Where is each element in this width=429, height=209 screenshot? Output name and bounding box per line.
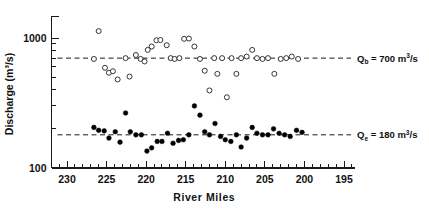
data-point-effective: [223, 137, 228, 142]
data-point-effective: [288, 134, 293, 139]
data-point-effective: [239, 145, 244, 150]
data-point-effective: [113, 129, 118, 134]
svg-text:Qe = 180 m3/s: Qe = 180 m3/s: [357, 129, 417, 142]
data-point-bankfull: [123, 56, 128, 61]
data-point-effective: [145, 149, 150, 154]
data-point-effective: [128, 129, 133, 134]
data-point-bankfull: [96, 29, 101, 34]
x-tick-labels-group: 230225220215210205200195: [58, 173, 353, 185]
data-point-bankfull: [254, 56, 259, 61]
data-point-effective: [271, 127, 276, 132]
discharge-vs-river-miles-chart: Discharge (m³/s) 1000100 230225220215210…: [0, 0, 429, 209]
data-point-bankfull: [164, 43, 169, 48]
annot-units-tail: /s: [410, 129, 418, 140]
x-tick-label: 205: [256, 173, 274, 185]
data-point-effective: [155, 139, 160, 144]
series-effective-points: [92, 104, 305, 154]
data-point-effective: [165, 131, 170, 136]
data-point-effective: [207, 132, 212, 137]
data-point-bankfull: [182, 36, 187, 41]
data-point-bankfull: [127, 74, 132, 79]
data-point-effective: [198, 113, 203, 118]
data-point-bankfull: [266, 56, 271, 61]
data-point-effective: [139, 132, 144, 137]
data-point-bankfull: [296, 56, 301, 61]
effective-discharge-label: Qe = 180 m3/s: [357, 129, 417, 142]
data-point-bankfull: [149, 44, 154, 49]
svg-text:Qb = 700 m3/s: Qb = 700 m3/s: [357, 52, 418, 65]
y-tick-labels-group: 1000100: [23, 32, 47, 174]
annotations-group: Qb = 700 m3/sQe = 180 m3/s: [357, 52, 418, 142]
x-axis-title: River Miles: [173, 191, 235, 203]
data-point-effective: [218, 134, 223, 139]
data-point-bankfull: [272, 71, 277, 76]
data-point-bankfull: [202, 68, 207, 73]
data-point-effective: [118, 140, 123, 145]
x-tick-label: 195: [335, 173, 353, 185]
data-point-bankfull: [192, 44, 197, 49]
annot-symbol: Q: [357, 53, 364, 64]
axes-group: [52, 16, 356, 168]
data-point-effective: [234, 132, 239, 137]
data-point-effective: [228, 139, 233, 144]
x-tick-label: 220: [137, 173, 155, 185]
data-point-bankfull: [207, 88, 212, 93]
series-bankfull-points: [91, 29, 300, 100]
data-point-bankfull: [212, 56, 217, 61]
data-point-bankfull: [289, 54, 294, 59]
data-point-effective: [202, 129, 207, 134]
data-point-effective: [149, 145, 154, 150]
data-point-bankfull: [172, 56, 177, 61]
data-point-effective: [255, 131, 260, 136]
data-point-effective: [192, 104, 197, 109]
data-point-bankfull: [91, 56, 96, 61]
data-point-effective: [96, 128, 101, 133]
data-point-bankfull: [224, 95, 229, 100]
data-point-effective: [181, 137, 186, 142]
x-tick-label: 230: [58, 173, 76, 185]
data-point-effective: [187, 132, 192, 137]
data-point-bankfull: [110, 69, 115, 74]
data-point-bankfull: [102, 65, 107, 70]
y-axis-title-group: Discharge (m³/s): [3, 53, 15, 135]
data-point-effective: [102, 129, 107, 134]
data-point-effective: [300, 130, 305, 135]
data-point-bankfull: [278, 56, 283, 61]
data-point-effective: [176, 138, 181, 143]
data-point-effective: [260, 132, 265, 137]
annot-symbol: Q: [357, 129, 364, 140]
data-point-effective: [277, 131, 282, 136]
data-point-bankfull: [244, 54, 249, 59]
annot-units: m: [395, 53, 406, 64]
data-point-bankfull: [142, 59, 147, 64]
data-point-bankfull: [250, 47, 255, 52]
data-point-effective: [282, 132, 287, 137]
data-point-bankfull: [229, 56, 234, 61]
data-point-bankfull: [260, 56, 265, 61]
data-point-bankfull: [220, 56, 225, 61]
y-axis-title: Discharge (m³/s): [3, 53, 15, 135]
y-tick-label: 1000: [23, 32, 47, 44]
data-point-effective: [213, 121, 218, 126]
data-point-effective: [92, 125, 97, 130]
annot-value: 180: [379, 129, 395, 140]
data-point-bankfull: [284, 56, 289, 61]
x-tick-label: 225: [98, 173, 116, 185]
chart-canvas: Discharge (m³/s) 1000100 230225220215210…: [0, 0, 429, 209]
data-point-bankfull: [158, 38, 163, 43]
x-axis-title-group: River Miles: [173, 191, 235, 203]
annot-value: 700: [379, 53, 395, 64]
data-point-effective: [244, 136, 249, 141]
annot-equals: =: [368, 129, 379, 140]
data-point-effective: [160, 139, 165, 144]
data-point-bankfull: [133, 53, 138, 58]
x-tick-label: 200: [296, 173, 314, 185]
annot-equals: =: [368, 53, 379, 64]
data-point-bankfull: [239, 56, 244, 61]
bankfull-discharge-label: Qb = 700 m3/s: [357, 52, 418, 65]
x-tick-label: 210: [217, 173, 235, 185]
data-point-bankfull: [234, 71, 239, 76]
annot-units-tail: /s: [410, 53, 418, 64]
data-point-bankfull: [177, 56, 182, 61]
y-tick-label: 100: [29, 162, 47, 174]
